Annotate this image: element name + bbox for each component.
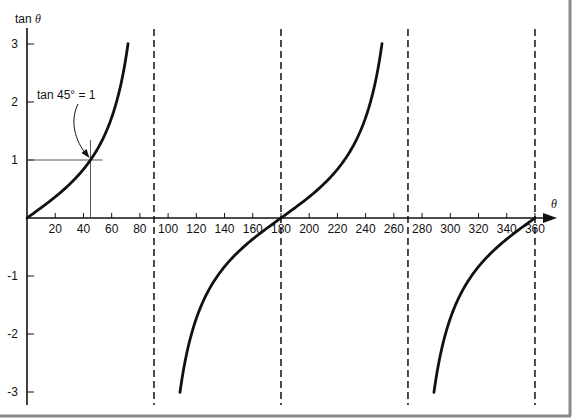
x-tick-label: 20 [49, 222, 63, 236]
tangent-branch-curve [434, 218, 535, 392]
x-tick-label: 300 [440, 222, 460, 236]
annotation-arrow-line [74, 104, 88, 156]
annotation-label: tan 45° = 1 [37, 88, 96, 102]
x-tick-label: 100 [158, 222, 178, 236]
x-tick-label: 140 [215, 222, 235, 236]
tangent-branch-curve [27, 44, 128, 218]
y-tick-label: 1 [11, 153, 18, 167]
x-tick-label: 40 [77, 222, 91, 236]
y-tick-label: 3 [11, 37, 18, 51]
x-axis-arrowhead-icon [543, 213, 557, 223]
x-axis-title: θ [551, 197, 557, 211]
axes [27, 28, 557, 405]
x-tick-label: 260 [384, 222, 404, 236]
x-tick-label: 120 [186, 222, 206, 236]
x-axis-ticks: 2040608010012014016018020022024026028030… [49, 213, 546, 236]
x-tick-label: 280 [412, 222, 432, 236]
y-axis-title: tan θ [15, 12, 41, 26]
asymptote-lines [154, 29, 535, 405]
x-tick-label: 80 [133, 222, 147, 236]
x-tick-label: 200 [299, 222, 319, 236]
y-axis-title-theta: θ [35, 12, 41, 26]
tangent-chart: 2040608010012014016018020022024026028030… [0, 0, 573, 419]
chart-frame: 2040608010012014016018020022024026028030… [0, 0, 573, 419]
x-tick-label: 320 [469, 222, 489, 236]
y-tick-label: 2 [11, 95, 18, 109]
y-tick-label: -1 [7, 269, 18, 283]
y-axis-title-tan: tan [15, 12, 35, 26]
y-tick-label: -2 [7, 327, 18, 341]
y-tick-label: -3 [7, 385, 18, 399]
x-tick-label: 60 [105, 222, 119, 236]
x-tick-label: 240 [356, 222, 376, 236]
x-tick-label: 220 [327, 222, 347, 236]
